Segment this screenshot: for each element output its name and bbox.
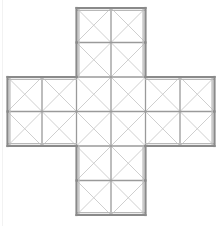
- figure-root: Plus-shaped polyomino made of five squar…: [0, 0, 218, 226]
- cross-grid-diagram: [0, 0, 218, 226]
- grid-line-layer: [8, 8, 215, 215]
